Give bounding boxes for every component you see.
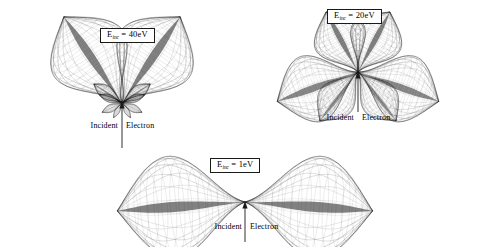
energy-value: = 40eV (119, 29, 148, 39)
electron-caption-1ev: Electron (250, 222, 320, 231)
energy-subscript: inc (112, 34, 119, 40)
polar-plot-40ev (0, 0, 250, 150)
energy-label-1ev: Einc = 1eV (210, 158, 260, 173)
scattering-panel-20ev: Einc = 20eV Incident Electron (252, 0, 489, 150)
incident-caption-1ev: Incident (176, 222, 242, 231)
energy-label-20ev: Einc = 20eV (327, 9, 382, 24)
scattering-panel-1ev: Einc = 1eV Incident Electron (90, 150, 400, 247)
energy-value: = 20eV (346, 10, 375, 20)
scattering-panel-40ev: Einc = 40eV Incident Electron (0, 0, 250, 150)
incident-caption-40ev: Incident (52, 121, 118, 130)
incident-caption-20ev: Incident (290, 113, 354, 122)
electron-caption-20ev: Electron (362, 113, 432, 122)
energy-label-40ev: Einc = 40eV (100, 28, 155, 43)
energy-value: = 1eV (229, 159, 253, 169)
electron-caption-40ev: Electron (126, 121, 196, 130)
energy-subscript: inc (222, 164, 229, 170)
energy-subscript: inc (339, 15, 346, 21)
